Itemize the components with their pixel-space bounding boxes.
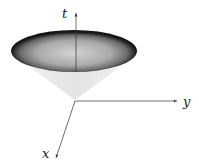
x-axis-label: x — [42, 146, 50, 161]
light-cone-diagram: t y x — [0, 0, 199, 168]
cone-cap — [11, 30, 137, 72]
x-axis — [56, 101, 75, 158]
t-axis-label: t — [62, 6, 68, 21]
y-axis-label: y — [182, 94, 191, 109]
